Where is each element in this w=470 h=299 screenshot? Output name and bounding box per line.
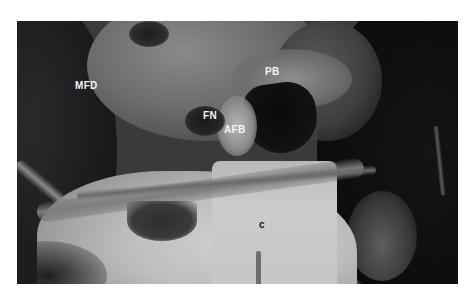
upper-dark-pocket xyxy=(129,21,169,47)
shadow-wedge xyxy=(127,201,197,241)
label-afb: AFB xyxy=(224,125,245,135)
drain-line xyxy=(256,251,261,284)
lower-right-tissue xyxy=(347,191,417,281)
label-fn: FN xyxy=(203,111,217,121)
label-mfd: MFD xyxy=(75,81,98,91)
surgical-photo xyxy=(17,21,458,284)
label-pb: PB xyxy=(265,67,280,77)
label-c: c xyxy=(259,220,265,230)
